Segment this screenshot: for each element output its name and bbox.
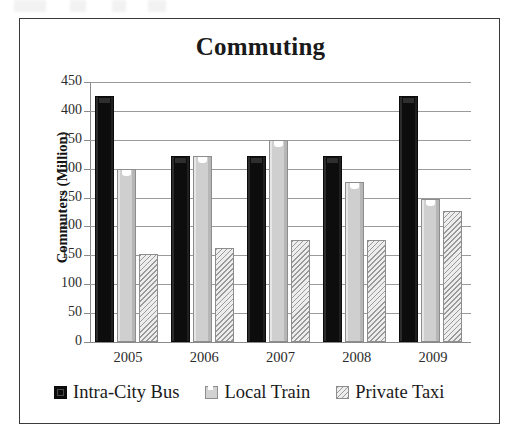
legend-item-bus[interactable]: Intra-City Bus xyxy=(54,382,179,403)
x-axis-tick-label-2008: 2008 xyxy=(319,349,395,366)
y-axis-tick-label: 250 xyxy=(30,189,82,205)
x-axis-tick-label-2009: 2009 xyxy=(395,349,471,366)
y-axis-tick-label: 50 xyxy=(30,304,82,320)
x-axis-tick-label-2006: 2006 xyxy=(166,349,242,366)
legend-label: Private Taxi xyxy=(355,382,444,403)
legend-swatch-bus-icon xyxy=(54,386,67,399)
y-axis-tick-mark xyxy=(84,255,90,256)
x-axis-tick-labels: 20052006200720082009 xyxy=(90,19,471,423)
y-axis-tick-mark xyxy=(84,169,90,170)
y-axis-tick-label: 300 xyxy=(30,160,82,176)
legend-swatch-train-icon xyxy=(205,386,218,399)
y-axis-tick-label: 400 xyxy=(30,102,82,118)
x-axis-tick-label-2005: 2005 xyxy=(90,349,166,366)
y-axis-tick-label: 200 xyxy=(30,217,82,233)
y-axis-tick-mark xyxy=(84,313,90,314)
y-axis-tick-label: 350 xyxy=(30,131,82,147)
y-axis-tick-mark xyxy=(84,284,90,285)
chart-figure-frame: Commuting Commuters (Million) 4504003503… xyxy=(19,18,500,424)
x-axis-tick-label-2007: 2007 xyxy=(242,349,318,366)
y-axis-tick-labels: 450400350300250200150100500 xyxy=(24,82,82,342)
y-axis-tick-mark xyxy=(84,111,90,112)
legend-label: Local Train xyxy=(224,382,310,403)
y-axis-tick-mark xyxy=(84,342,90,343)
legend-label: Intra-City Bus xyxy=(73,382,179,403)
y-axis-tick-mark xyxy=(84,226,90,227)
y-axis-tick-mark xyxy=(84,198,90,199)
y-axis-tick-label: 450 xyxy=(30,73,82,89)
y-axis-tick-label: 150 xyxy=(30,246,82,262)
y-axis-tick-label: 100 xyxy=(30,275,82,291)
legend-item-train[interactable]: Local Train xyxy=(205,382,310,403)
scan-artifact-strip xyxy=(0,0,518,12)
y-axis-tick-label: 0 xyxy=(30,333,82,349)
legend-item-taxi[interactable]: Private Taxi xyxy=(336,382,444,403)
y-axis-tick-mark xyxy=(84,140,90,141)
legend-swatch-taxi-icon xyxy=(336,386,349,399)
y-axis-tick-mark xyxy=(84,82,90,83)
chart-legend: Intra-City BusLocal TrainPrivate Taxi xyxy=(54,377,474,407)
